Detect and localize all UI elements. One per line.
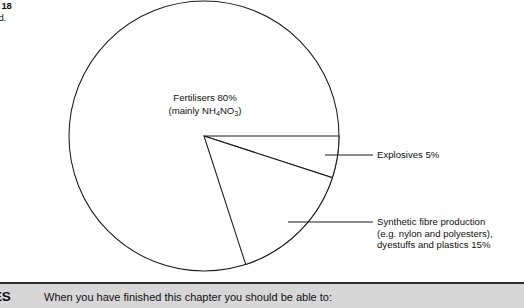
formula-subscript-4: 4 [216, 109, 220, 118]
pie-label-fertilisers: Fertilisers 80% (mainly NH4NO3) [118, 92, 292, 116]
objectives-tag: ES [0, 289, 38, 305]
formula-subscript-3: 3 [234, 109, 238, 118]
objectives-text: When you have finished this chapter you … [44, 289, 332, 305]
objectives-row: ES When you have finished this chapter y… [0, 289, 524, 308]
textbook-page: e 18 cid. Fertilisers 80% (mainly NH4NO3… [0, 0, 524, 308]
pie-label-synthetic-line-3: dyestuffs and plastics 15% [377, 239, 523, 251]
pie-label-synthetic-line-2: (e.g. nylon and polyesters), [377, 228, 523, 240]
formula-prefix: (mainly NH [168, 105, 215, 116]
formula-suffix: ) [238, 105, 241, 116]
pie-label-explosives: Explosives 5% [377, 149, 439, 161]
formula-middle: NO [220, 105, 234, 116]
pie-label-fertilisers-formula: (mainly NH4NO3) [118, 105, 292, 117]
pie-label-synthetic-line-1: Synthetic fibre production [377, 216, 523, 228]
pie-label-synthetic: Synthetic fibre production (e.g. nylon a… [377, 216, 523, 251]
pie-label-fertilisers-line-1: Fertilisers 80% [118, 92, 292, 104]
